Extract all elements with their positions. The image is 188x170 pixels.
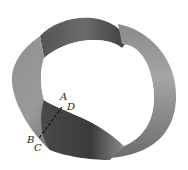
label-a: A bbox=[59, 91, 67, 102]
mobius-strip-diagram: A D B C bbox=[0, 0, 188, 170]
label-c: C bbox=[34, 142, 42, 153]
label-d: D bbox=[66, 101, 75, 112]
